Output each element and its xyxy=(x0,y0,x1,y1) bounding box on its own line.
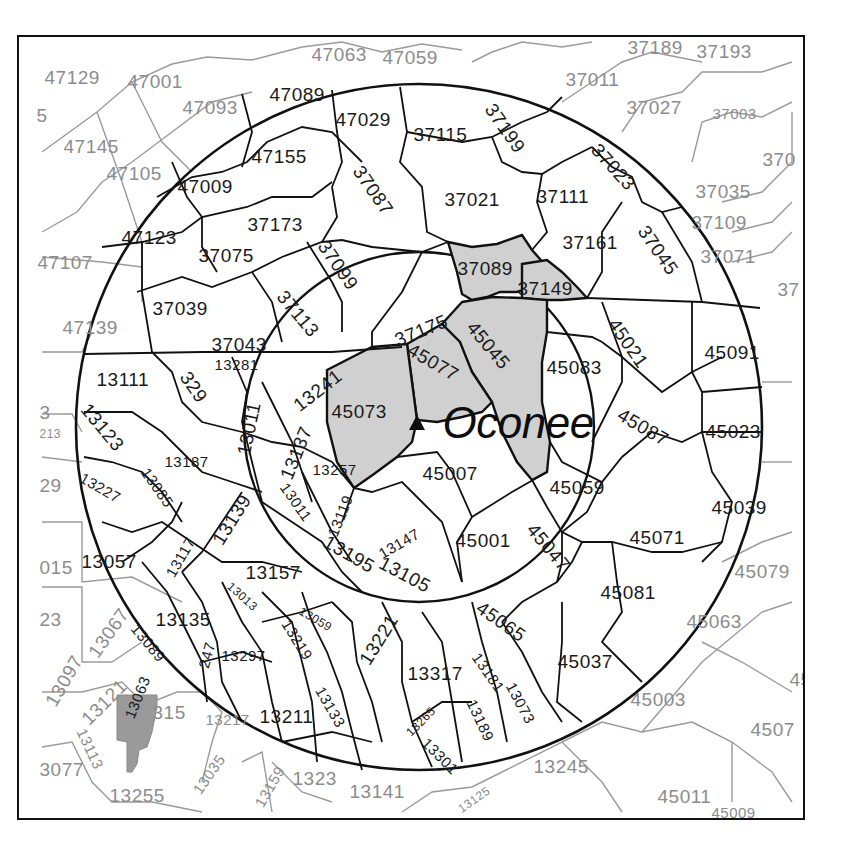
county-label-37115: 37115 xyxy=(414,125,468,144)
county-label-37111: 37111 xyxy=(537,187,590,206)
county-label-213: 213 xyxy=(40,428,62,440)
county-label-37149: 37149 xyxy=(518,279,573,298)
county-label-45023: 45023 xyxy=(706,422,761,441)
county-label-47063: 47063 xyxy=(312,45,367,64)
county-label-45091: 45091 xyxy=(705,343,760,362)
county-label-47105: 47105 xyxy=(107,164,162,183)
county-label-47107: 47107 xyxy=(38,253,93,272)
county-label-13135: 13135 xyxy=(156,610,211,629)
county-label-47009: 47009 xyxy=(178,177,233,196)
county-label-47129: 47129 xyxy=(45,68,100,87)
county-label-37003: 37003 xyxy=(713,106,757,121)
county-label-37189: 37189 xyxy=(628,38,683,57)
county-label-45063: 45063 xyxy=(687,612,742,631)
county-label-23: 23 xyxy=(40,610,62,629)
county-label-47123: 47123 xyxy=(122,228,177,247)
county-label-45083: 45083 xyxy=(547,358,602,377)
county-label-3: 3 xyxy=(40,403,51,422)
county-label-37161: 37161 xyxy=(563,233,618,252)
county-label-45011: 45011 xyxy=(658,787,712,806)
county-label-37075: 37075 xyxy=(199,246,254,265)
county-label-29: 29 xyxy=(40,476,62,495)
county-label-47059: 47059 xyxy=(383,48,438,67)
county-label-37: 37 xyxy=(778,280,800,299)
county-label-37109: 37109 xyxy=(692,213,747,232)
county-label-37193: 37193 xyxy=(697,42,752,61)
county-label-13245: 13245 xyxy=(534,757,589,776)
county-label-37011: 37011 xyxy=(566,70,620,89)
county-label-47029: 47029 xyxy=(336,110,391,129)
map-frame: 4712947001470634705937189371935470934708… xyxy=(17,35,805,820)
county-label-45: 45 xyxy=(790,670,806,689)
county-label-13187: 13187 xyxy=(165,454,209,469)
county-label-37039: 37039 xyxy=(153,299,208,318)
county-label-13281: 13281 xyxy=(215,357,259,372)
county-label-13141: 13141 xyxy=(350,782,405,801)
site-label: Oconee xyxy=(443,398,594,448)
county-label-45071: 45071 xyxy=(630,528,685,547)
county-label-45073: 45073 xyxy=(332,402,387,421)
county-label-37071: 37071 xyxy=(701,247,756,266)
county-label-37021: 37021 xyxy=(445,190,500,209)
county-label-45003: 45003 xyxy=(631,690,686,709)
county-label-13211: 13211 xyxy=(260,707,314,726)
county-label-37027: 37027 xyxy=(627,98,682,117)
county-label-5: 5 xyxy=(37,106,48,125)
county-label-45037: 45037 xyxy=(558,652,613,671)
triangle-marker-icon xyxy=(409,415,425,430)
county-label-13057: 13057 xyxy=(82,552,137,571)
county-label-47145: 47145 xyxy=(64,137,119,156)
county-label-13257: 13257 xyxy=(313,462,357,477)
county-label-13297: 13297 xyxy=(222,648,266,663)
county-label-37035: 37035 xyxy=(696,182,751,201)
county-label-45081: 45081 xyxy=(601,583,656,602)
county-label-1323: 1323 xyxy=(293,769,337,788)
county-label-015: 015 xyxy=(40,558,73,577)
county-label-45001: 45001 xyxy=(456,531,511,550)
county-label-45007: 45007 xyxy=(423,464,478,483)
county-label-37089: 37089 xyxy=(458,259,513,278)
county-label-4507: 4507 xyxy=(751,720,795,739)
county-label-13317: 13317 xyxy=(408,664,463,683)
county-label-13111: 13111 xyxy=(97,370,150,389)
county-label-45039: 45039 xyxy=(712,498,767,517)
county-label-37043: 37043 xyxy=(212,335,267,354)
county-label-45079: 45079 xyxy=(735,562,790,581)
county-label-47089: 47089 xyxy=(270,85,325,104)
county-label-45059: 45059 xyxy=(550,478,605,497)
county-label-370: 370 xyxy=(763,150,796,169)
county-label-13157: 13157 xyxy=(246,563,301,582)
county-label-315: 315 xyxy=(153,703,186,722)
county-label-37173: 37173 xyxy=(248,215,303,234)
county-label-47139: 47139 xyxy=(63,318,118,337)
county-label-45009: 45009 xyxy=(712,805,756,820)
county-label-47155: 47155 xyxy=(252,147,307,166)
county-label-3077: 3077 xyxy=(40,760,84,779)
county-label-13255: 13255 xyxy=(110,786,165,805)
county-label-47001: 47001 xyxy=(128,72,183,91)
county-label-47093: 47093 xyxy=(183,98,238,117)
county-label-13217: 13217 xyxy=(206,712,250,727)
